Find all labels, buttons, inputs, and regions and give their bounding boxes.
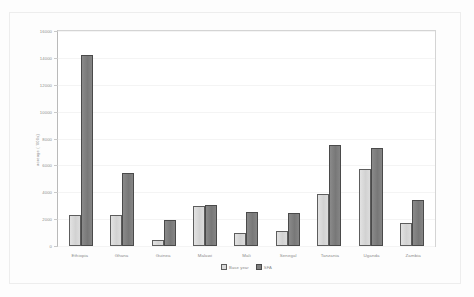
legend-item[interactable]: Base year xyxy=(221,264,249,270)
plot-area: 0200040006000800010000120001400016000 xyxy=(57,30,436,247)
chart-legend: Base yearSFA xyxy=(57,264,436,270)
bar[interactable] xyxy=(400,223,412,246)
x-axis-label: Malawi xyxy=(184,253,226,258)
bar-group xyxy=(101,31,142,246)
bar[interactable] xyxy=(317,194,329,246)
bar-group xyxy=(392,31,433,246)
chart-page: acreage ( '000s) 02000400060008000100001… xyxy=(0,0,474,297)
light-gray-swatch xyxy=(221,264,227,270)
bar-group xyxy=(350,31,391,246)
x-axis-label: Mali xyxy=(226,253,268,258)
y-tick-label: 0 xyxy=(50,244,52,249)
bar[interactable] xyxy=(359,169,371,246)
bar[interactable] xyxy=(234,233,246,246)
x-axis-label: Zambia xyxy=(392,253,434,258)
bar[interactable] xyxy=(329,145,341,246)
y-tick-label: 6000 xyxy=(42,163,52,168)
legend-label: SFA xyxy=(264,265,272,270)
bar-group xyxy=(143,31,184,246)
x-axis-label: Tanzania xyxy=(309,253,351,258)
bar[interactable] xyxy=(205,205,217,246)
bar-group xyxy=(309,31,350,246)
y-tick-label: 2000 xyxy=(42,217,52,222)
bar[interactable] xyxy=(164,220,176,246)
y-tick-label: 14000 xyxy=(40,55,52,60)
y-axis-title: acreage ( '000s) xyxy=(35,134,40,166)
x-axis-label: Guinea xyxy=(142,253,184,258)
x-axis-label: Uganda xyxy=(351,253,393,258)
bar-group xyxy=(267,31,308,246)
bar[interactable] xyxy=(110,215,122,246)
bar-series-container xyxy=(58,31,435,246)
x-axis-label: Ethiopia xyxy=(59,253,101,258)
y-tick-label: 4000 xyxy=(42,190,52,195)
bar-chart: acreage ( '000s) 02000400060008000100001… xyxy=(20,22,450,277)
y-tick-label: 16000 xyxy=(40,29,52,34)
dark-gray-swatch xyxy=(256,264,262,270)
bar[interactable] xyxy=(246,212,258,246)
bar[interactable] xyxy=(412,200,424,246)
y-tick-label: 10000 xyxy=(40,109,52,114)
y-tick-label: 8000 xyxy=(42,136,52,141)
x-axis-labels: EthiopiaGhanaGuineaMalawiMaliSenegalTanz… xyxy=(57,253,436,258)
bar[interactable] xyxy=(371,148,383,246)
legend-label: Base year xyxy=(229,265,249,270)
y-tick-mark xyxy=(54,246,58,247)
bar[interactable] xyxy=(288,213,300,246)
legend-item[interactable]: SFA xyxy=(256,264,272,270)
bar[interactable] xyxy=(152,240,164,246)
x-axis-label: Senegal xyxy=(267,253,309,258)
x-axis-label: Ghana xyxy=(101,253,143,258)
bar[interactable] xyxy=(276,231,288,246)
bar[interactable] xyxy=(81,55,93,246)
y-gridline xyxy=(58,246,435,247)
bar[interactable] xyxy=(69,215,81,246)
bar-group xyxy=(60,31,101,246)
y-tick-label: 12000 xyxy=(40,82,52,87)
bar-group xyxy=(184,31,225,246)
bar[interactable] xyxy=(122,173,134,246)
bar-group xyxy=(226,31,267,246)
bar[interactable] xyxy=(193,206,205,246)
